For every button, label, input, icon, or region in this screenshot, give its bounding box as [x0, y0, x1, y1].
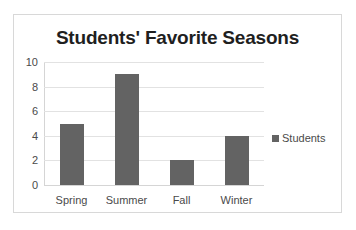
legend-label-students: Students: [282, 132, 325, 144]
gridline-0: [44, 185, 264, 186]
plot-area: 0246810 SpringSummerFallWinter: [44, 62, 264, 185]
bar-summer[interactable]: [115, 74, 139, 185]
y-tick-label-2: 2: [32, 154, 38, 166]
bar-winter[interactable]: [225, 136, 249, 185]
chart-frame: Students' Favorite Seasons 0246810 Sprin…: [13, 14, 342, 213]
y-tick-label-6: 6: [32, 105, 38, 117]
y-axis-line: [44, 62, 45, 185]
chart-legend: Students: [272, 132, 325, 144]
y-tick-label-4: 4: [32, 130, 38, 142]
y-tick-label-8: 8: [32, 81, 38, 93]
gridline-10: [44, 62, 264, 63]
x-tick-label-spring: Spring: [56, 194, 88, 206]
x-tick-label-fall: Fall: [173, 194, 191, 206]
chart-title: Students' Favorite Seasons: [14, 27, 341, 49]
gridline-6: [44, 111, 264, 112]
bar-spring[interactable]: [60, 124, 84, 186]
y-tick-label-0: 0: [32, 179, 38, 191]
bar-fall[interactable]: [170, 160, 194, 185]
y-tick-label-10: 10: [26, 56, 38, 68]
legend-swatch-students: [272, 135, 279, 142]
x-tick-label-winter: Winter: [221, 194, 253, 206]
x-tick-label-summer: Summer: [106, 194, 148, 206]
gridline-8: [44, 87, 264, 88]
